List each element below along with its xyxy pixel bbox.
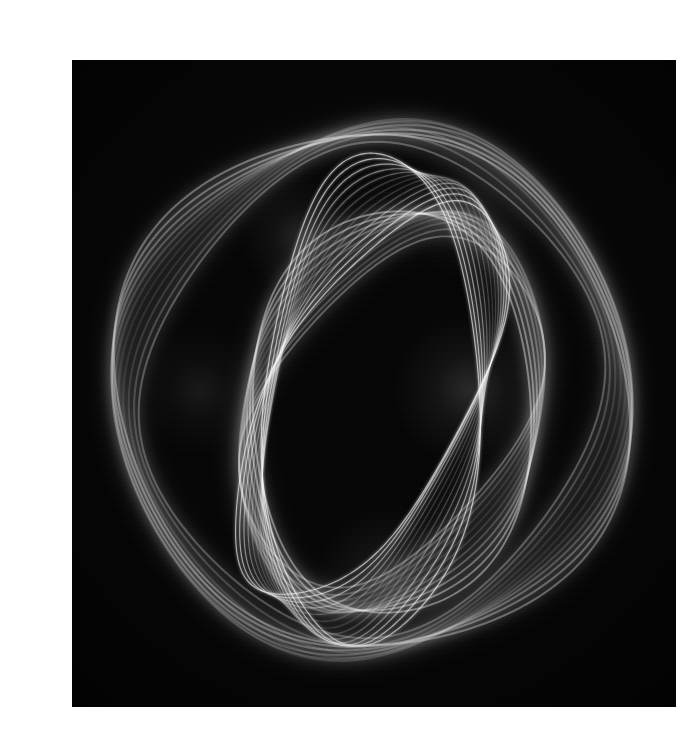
light-hotspot — [314, 504, 466, 656]
light-hotspot — [402, 140, 542, 280]
light-trail-canvas — [72, 60, 676, 707]
light-hotspot — [240, 176, 360, 296]
light-hotspot — [392, 312, 548, 468]
photograph: Long-exposure light painting: overlappin… — [72, 60, 676, 707]
light-hotspot — [134, 324, 266, 456]
